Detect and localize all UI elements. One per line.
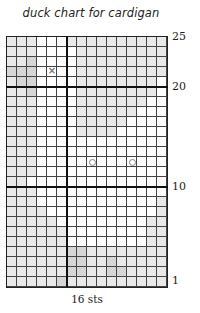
chart-cell [77, 167, 87, 177]
chart-cell [37, 277, 47, 287]
chart-cell [137, 187, 147, 197]
chart-cell [147, 207, 157, 217]
chart-cell [97, 257, 107, 267]
chart-cell [7, 227, 17, 237]
chart-cell [67, 277, 77, 287]
chart-cell [107, 187, 117, 197]
chart-cell [7, 197, 17, 207]
row-label-1: 1 [172, 274, 179, 287]
chart-cell [37, 257, 47, 267]
chart-cell [77, 207, 87, 217]
chart-cell [127, 37, 137, 47]
chart-cell [147, 87, 157, 97]
chart-cell [17, 37, 27, 47]
row-label-10: 10 [172, 180, 186, 193]
chart-cell [67, 187, 77, 197]
chart-cell [117, 87, 127, 97]
chart-cell [97, 227, 107, 237]
chart-cell [137, 107, 147, 117]
chart-cell [147, 217, 157, 227]
chart-cell [147, 197, 157, 207]
chart-cell [67, 57, 77, 67]
chart-cell [147, 107, 157, 117]
chart-cell [147, 247, 157, 257]
chart-cell [7, 137, 17, 147]
chart-cell [77, 147, 87, 157]
chart-cell [7, 97, 17, 107]
chart-cell [37, 237, 47, 247]
chart-cell [107, 57, 117, 67]
chart-cell [17, 217, 27, 227]
chart-cell [137, 167, 147, 177]
chart-cell [147, 237, 157, 247]
chart-cell [77, 107, 87, 117]
chart-cell [17, 157, 27, 167]
chart-cell [97, 207, 107, 217]
chart-cell [97, 67, 107, 77]
chart-cell [107, 117, 117, 127]
chart-cell [107, 97, 117, 107]
chart-cell [67, 67, 77, 77]
chart-title: duck chart for cardigan [0, 6, 182, 20]
chart-cell [67, 267, 77, 277]
chart-cell [17, 267, 27, 277]
chart-cell [7, 47, 17, 57]
chart-cell [97, 147, 107, 157]
chart-cell [7, 257, 17, 267]
chart-cell [17, 247, 27, 257]
chart-cell [47, 217, 57, 227]
chart-cell [137, 97, 147, 107]
chart-cell [47, 47, 57, 57]
chart-cell [117, 257, 127, 267]
chart-cell [37, 227, 47, 237]
chart-cell [37, 127, 47, 137]
chart-cell [67, 87, 77, 97]
chart-cell [27, 197, 37, 207]
chart-cell [77, 67, 87, 77]
chart-cell [47, 257, 57, 267]
chart-cell [77, 97, 87, 107]
chart-cell [117, 37, 127, 47]
chart-cell [157, 237, 167, 247]
chart-cell [77, 247, 87, 257]
chart-cell [17, 167, 27, 177]
chart-cell [87, 207, 97, 217]
chart-cell [157, 277, 167, 287]
cross-icon: × [47, 66, 57, 76]
chart-cell [27, 207, 37, 217]
chart-cell [107, 167, 117, 177]
chart-cell [117, 207, 127, 217]
chart-cell [117, 197, 127, 207]
chart-cell [87, 47, 97, 57]
chart-cell [77, 117, 87, 127]
chart-cell [97, 267, 107, 277]
chart-cell [107, 107, 117, 117]
chart-cell [97, 157, 107, 167]
chart-cell [17, 207, 27, 217]
chart-cell [157, 127, 167, 137]
chart-cell [87, 57, 97, 67]
chart-cell [157, 57, 167, 67]
chart-cell [137, 157, 147, 167]
chart-cell [17, 97, 27, 107]
chart-cell [107, 227, 117, 237]
chart-cell [87, 257, 97, 267]
chart-cell [47, 37, 57, 47]
chart-cell [37, 157, 47, 167]
chart-cell [37, 197, 47, 207]
chart-cell [127, 147, 137, 157]
chart-cell [117, 157, 127, 167]
chart-cell [87, 117, 97, 127]
chart-cell [127, 207, 137, 217]
chart-cell [37, 247, 47, 257]
chart-cell [87, 127, 97, 137]
chart-cell [17, 57, 27, 67]
chart-cell [37, 107, 47, 117]
chart-cell [37, 187, 47, 197]
chart-cell [27, 247, 37, 257]
chart-cell [147, 277, 157, 287]
chart-cell [107, 87, 117, 97]
chart-cell [147, 227, 157, 237]
chart-cell [147, 47, 157, 57]
chart-cell [67, 117, 77, 127]
